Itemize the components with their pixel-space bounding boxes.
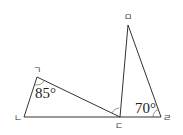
segment-digeut-mieum — [120, 25, 128, 117]
vertex-label-digeut: ㄷ — [115, 121, 123, 131]
triangles-diagram: 85° 70° ㄱ ㄴ ㄷ ㄹ ㅁ — [0, 0, 183, 135]
angle-value-giyeok: 85° — [35, 85, 56, 101]
vertex-label-rieul: ㄹ — [163, 113, 171, 123]
angle-value-rieul: 70° — [135, 100, 156, 116]
vertex-label-mieum: ㅁ — [124, 12, 132, 22]
geometry-figure: 85° 70° ㄱ ㄴ ㄷ ㄹ ㅁ — [0, 0, 183, 135]
angle-arc-digeut — [112, 108, 119, 113]
vertex-label-nieun: ㄴ — [14, 113, 22, 123]
vertex-label-giyeok: ㄱ — [33, 65, 41, 75]
